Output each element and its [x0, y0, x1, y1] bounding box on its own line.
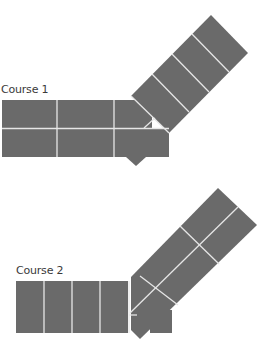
course-2-bricks — [16, 188, 257, 339]
course-2-diagonal-arm — [131, 188, 257, 339]
course-1-bottom-row — [2, 129, 169, 157]
course-1-corner-tip — [126, 157, 146, 166]
brick-courses-diagram — [0, 0, 264, 346]
course-2-corner-brick — [150, 310, 172, 333]
course-1-top-row — [2, 100, 152, 128]
course-1-bricks — [2, 15, 248, 166]
